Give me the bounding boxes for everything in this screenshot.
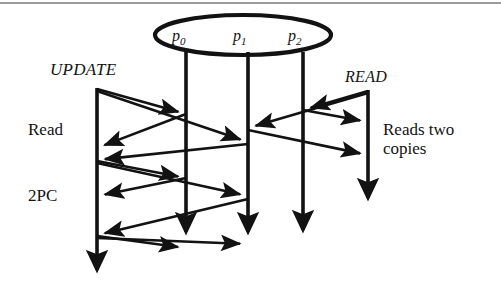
p2-to-read-reply — [303, 110, 360, 121]
reads-two-copies-note: Reads two copies — [383, 120, 454, 158]
lifelines-layer — [97, 52, 368, 270]
node-label-p2-base: p — [288, 27, 296, 44]
node-label-p2-subscript: 2 — [296, 35, 302, 47]
update-to-p1-final — [97, 238, 240, 244]
read-to-p2-request — [311, 91, 368, 108]
messages-layer — [97, 89, 368, 247]
p1-to-update-reply — [105, 144, 248, 159]
node-label-p1: p1 — [233, 27, 247, 48]
p0-to-update-reply — [104, 114, 186, 145]
p1-to-update-ack — [105, 199, 248, 233]
node-label-p1-base: p — [233, 27, 241, 44]
node-label-p2: p2 — [288, 27, 302, 48]
node-label-p0-subscript: 0 — [180, 35, 186, 47]
update-to-p0-commit — [97, 161, 178, 176]
phase-read-label: Read — [28, 120, 63, 139]
read-to-p1-request — [256, 93, 368, 126]
read-client-label: READ — [345, 68, 387, 86]
note-line-1: Reads two — [383, 120, 454, 139]
node-label-p1-subscript: 1 — [241, 35, 247, 47]
figure-canvas: UPDATE READ Read 2PC Reads two copies p0… — [0, 0, 501, 308]
update-to-p0-prepare — [97, 89, 178, 112]
update-to-p1-commit — [97, 163, 240, 194]
node-label-p0: p0 — [172, 27, 186, 48]
note-line-2: copies — [383, 139, 454, 158]
phase-2pc-label: 2PC — [28, 186, 57, 205]
update-client-label: UPDATE — [50, 60, 116, 79]
update-to-p1-prepare — [97, 91, 240, 139]
node-label-p0-base: p — [172, 27, 180, 44]
p0-to-update-ack — [105, 178, 186, 194]
